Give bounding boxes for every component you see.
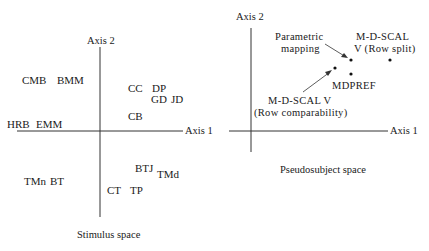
stimulus-axis2-label: Axis 2: [87, 35, 115, 46]
stimulus-label: TMd: [157, 168, 180, 180]
label-mdscal-row-comparability-line2: (Row comparability): [254, 107, 348, 119]
label-mdpref: MDPREF: [332, 80, 376, 91]
stimulus-label: CB: [128, 110, 143, 122]
point-mdscal-row-comparability: [333, 66, 336, 69]
stimulus-label: BT: [50, 175, 64, 187]
stimulus-label: GD: [151, 93, 167, 105]
stimulus-label: CT: [107, 184, 121, 196]
stimulus-label: CC: [128, 82, 143, 94]
label-mdscal-row-split-line2: V (Row split): [354, 43, 416, 55]
stimulus-space-caption: Stimulus space: [77, 229, 141, 240]
stimulus-label: HRB: [7, 118, 30, 130]
label-mdscal-row-comparability-line1: M-D-SCAL V: [268, 95, 331, 106]
label-parametric-mapping-line1: Parametric: [275, 31, 324, 42]
arrowhead-parametric-mapping: [341, 53, 348, 58]
label-parametric-mapping-line2: mapping: [281, 43, 320, 54]
stimulus-space-panel: Axis 2 Axis 1 CMB BMM CC DP GD JD CB HRB…: [7, 35, 213, 240]
stimulus-label: TP: [130, 184, 143, 196]
pseudo-axis1-label: Axis 1: [390, 125, 418, 136]
point-parametric-mapping: [349, 58, 352, 61]
pseudosubject-space-panel: Axis 2 Axis 1 Parametric mapping M-D-SCA…: [229, 11, 418, 175]
point-mdscal-row-split: [388, 58, 391, 61]
stimulus-label: TMn: [24, 175, 47, 187]
stimulus-label: CMB: [22, 74, 46, 86]
pseudo-axis2-label: Axis 2: [236, 11, 264, 22]
stimulus-axis1-label: Axis 1: [185, 125, 213, 136]
stimulus-label: BMM: [57, 74, 84, 86]
point-mdpref: [349, 72, 352, 75]
stimulus-label: EMM: [36, 118, 63, 130]
pseudosubject-space-caption: Pseudosubject space: [280, 164, 366, 175]
stimulus-label: BTJ: [135, 162, 154, 174]
label-mdscal-row-split-line1: M-D-SCAL: [356, 31, 409, 42]
arrow-mdscal-row-comparability: [303, 72, 330, 92]
stimulus-label: JD: [171, 93, 183, 105]
figure: Axis 2 Axis 1 CMB BMM CC DP GD JD CB HRB…: [0, 0, 429, 251]
